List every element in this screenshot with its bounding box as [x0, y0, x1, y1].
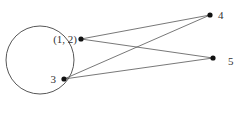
label-3: 3 — [51, 73, 57, 85]
label-1-2: (1, 2) — [53, 33, 77, 46]
label-4: 4 — [218, 9, 224, 21]
edge-3-to-5 — [64, 58, 213, 79]
point-4 — [207, 12, 212, 17]
point-1-2 — [78, 36, 83, 41]
label-5: 5 — [228, 55, 234, 67]
edge-1-2-to-5 — [81, 39, 213, 58]
edge-1-2-to-4 — [81, 15, 210, 39]
mapping-diagram: (1, 2) 3 4 5 — [0, 0, 240, 119]
point-3 — [61, 76, 66, 81]
edge-3-to-4 — [64, 15, 210, 79]
point-5 — [210, 55, 215, 60]
mapping-edges — [64, 15, 213, 79]
